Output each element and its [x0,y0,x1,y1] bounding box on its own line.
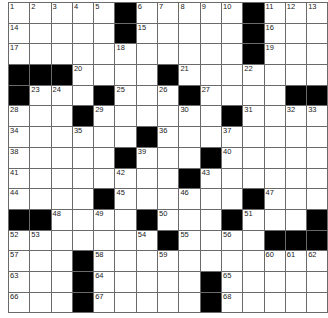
answer-cell[interactable] [30,293,51,314]
answer-cell[interactable]: 55 [179,231,200,252]
answer-cell[interactable]: 9 [201,3,222,24]
answer-cell[interactable] [158,169,179,190]
answer-cell[interactable] [30,148,51,169]
answer-cell[interactable]: 10 [222,3,243,24]
answer-cell[interactable]: 34 [9,127,30,148]
answer-cell[interactable] [137,65,158,86]
answer-cell[interactable] [179,24,200,45]
answer-cell[interactable]: 27 [201,86,222,107]
answer-cell[interactable] [243,293,264,314]
answer-cell[interactable] [52,251,73,272]
answer-cell[interactable]: 30 [179,106,200,127]
answer-cell[interactable] [265,169,286,190]
answer-cell[interactable] [243,86,264,107]
answer-cell[interactable] [115,293,136,314]
answer-cell[interactable]: 39 [137,148,158,169]
answer-cell[interactable] [30,127,51,148]
answer-cell[interactable]: 32 [286,106,307,127]
answer-cell[interactable] [265,210,286,231]
answer-cell[interactable] [73,86,94,107]
answer-cell[interactable]: 18 [115,44,136,65]
answer-cell[interactable] [94,169,115,190]
answer-cell[interactable] [30,44,51,65]
answer-cell[interactable] [158,189,179,210]
answer-cell[interactable] [222,86,243,107]
answer-cell[interactable] [73,169,94,190]
answer-cell[interactable]: 56 [222,231,243,252]
answer-cell[interactable] [158,24,179,45]
answer-cell[interactable]: 52 [9,231,30,252]
answer-cell[interactable]: 31 [243,106,264,127]
answer-cell[interactable]: 2 [30,3,51,24]
answer-cell[interactable] [137,272,158,293]
answer-cell[interactable]: 58 [94,251,115,272]
answer-cell[interactable]: 8 [179,3,200,24]
answer-cell[interactable]: 41 [9,169,30,190]
answer-cell[interactable]: 36 [158,127,179,148]
answer-cell[interactable]: 23 [30,86,51,107]
answer-cell[interactable]: 51 [243,210,264,231]
answer-cell[interactable]: 1 [9,3,30,24]
answer-cell[interactable] [137,293,158,314]
answer-cell[interactable] [201,44,222,65]
answer-cell[interactable] [73,231,94,252]
answer-cell[interactable] [286,210,307,231]
answer-cell[interactable] [307,148,328,169]
answer-cell[interactable]: 28 [9,106,30,127]
answer-cell[interactable] [179,148,200,169]
answer-cell[interactable] [115,106,136,127]
answer-cell[interactable]: 38 [9,148,30,169]
answer-cell[interactable]: 63 [9,272,30,293]
answer-cell[interactable] [201,189,222,210]
answer-cell[interactable] [179,210,200,231]
answer-cell[interactable] [94,231,115,252]
answer-cell[interactable] [201,65,222,86]
answer-cell[interactable]: 44 [9,189,30,210]
answer-cell[interactable] [243,272,264,293]
answer-cell[interactable]: 35 [73,127,94,148]
answer-cell[interactable] [265,293,286,314]
answer-cell[interactable]: 5 [94,3,115,24]
answer-cell[interactable] [222,44,243,65]
answer-cell[interactable]: 67 [94,293,115,314]
answer-cell[interactable] [52,127,73,148]
answer-cell[interactable] [52,272,73,293]
answer-cell[interactable] [307,127,328,148]
answer-cell[interactable]: 60 [265,251,286,272]
answer-cell[interactable]: 12 [286,3,307,24]
answer-cell[interactable] [52,189,73,210]
answer-cell[interactable]: 46 [179,189,200,210]
answer-cell[interactable] [137,189,158,210]
answer-cell[interactable] [94,44,115,65]
answer-cell[interactable] [222,24,243,45]
answer-cell[interactable] [286,24,307,45]
answer-cell[interactable] [179,127,200,148]
answer-cell[interactable] [137,86,158,107]
answer-cell[interactable] [243,231,264,252]
answer-cell[interactable] [158,293,179,314]
answer-cell[interactable] [52,169,73,190]
answer-cell[interactable] [30,251,51,272]
answer-cell[interactable]: 57 [9,251,30,272]
answer-cell[interactable] [222,65,243,86]
answer-cell[interactable]: 13 [307,3,328,24]
answer-cell[interactable] [158,272,179,293]
answer-cell[interactable] [30,106,51,127]
answer-cell[interactable] [265,127,286,148]
answer-cell[interactable]: 21 [179,65,200,86]
answer-cell[interactable] [158,44,179,65]
answer-cell[interactable]: 43 [201,169,222,190]
answer-cell[interactable]: 66 [9,293,30,314]
answer-cell[interactable] [286,65,307,86]
answer-cell[interactable] [30,272,51,293]
answer-cell[interactable] [222,251,243,272]
answer-cell[interactable] [222,169,243,190]
answer-cell[interactable]: 19 [265,44,286,65]
answer-cell[interactable] [243,127,264,148]
answer-cell[interactable]: 48 [52,210,73,231]
answer-cell[interactable]: 40 [222,148,243,169]
answer-cell[interactable]: 54 [137,231,158,252]
answer-cell[interactable]: 64 [94,272,115,293]
answer-cell[interactable]: 7 [158,3,179,24]
answer-cell[interactable] [94,148,115,169]
